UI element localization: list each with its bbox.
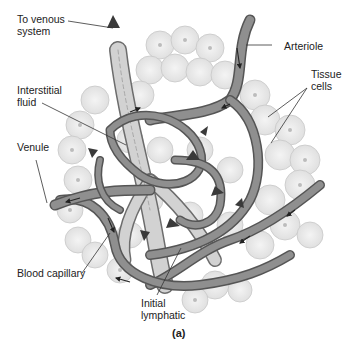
label-arteriole: Arteriole xyxy=(284,40,323,52)
label-blood-capillary: Blood capillary xyxy=(17,267,85,279)
label-to-venous-system: To venous system xyxy=(17,13,65,37)
label-interstitial-fluid: Interstitial fluid xyxy=(17,84,62,108)
label-tissue-cells: Tissue cells xyxy=(311,68,342,92)
label-venule: Venule xyxy=(17,141,49,153)
figure-caption: (a) xyxy=(172,327,185,339)
label-initial-lymphatic: Initial lymphatic xyxy=(141,297,185,321)
